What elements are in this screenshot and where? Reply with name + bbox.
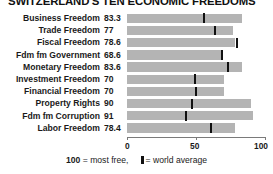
x-axis-tick-label: 100 [254, 141, 268, 151]
value-label: 70 [104, 86, 124, 97]
world-average-tick-icon [195, 87, 197, 97]
value-label: 70 [104, 74, 124, 85]
value-label: 83.6 [104, 62, 124, 73]
world-average-tick-icon [236, 38, 238, 48]
world-average-tick-icon [227, 62, 229, 72]
bar-track [127, 75, 265, 84]
category-label: Business Freedom [0, 13, 100, 24]
legend-most-free-number: 100 [66, 155, 80, 165]
world-average-tick-icon [141, 156, 143, 164]
value-label: 78.4 [104, 123, 124, 134]
value-bar [127, 75, 224, 84]
value-bar [127, 99, 251, 108]
world-average-tick-icon [221, 50, 223, 60]
value-bar [127, 87, 224, 96]
value-bar [127, 62, 242, 71]
bar-track [127, 87, 265, 96]
economic-freedoms-chart: SWITZERLAND'S TEN ECONOMIC FREEDOMS Busi… [0, 0, 273, 174]
x-axis-tick [196, 137, 197, 140]
chart-row: Business Freedom 83.3 [0, 13, 273, 25]
category-label: Investment Freedom [0, 74, 100, 85]
world-average-tick-icon [214, 26, 216, 36]
chart-row: Financial Freedom 70 [0, 86, 273, 98]
value-bar [127, 38, 235, 47]
bar-track [127, 123, 265, 132]
bar-track [127, 99, 265, 108]
x-axis-tick-label: 0 [125, 141, 130, 151]
chart-row: Property Rights 90 [0, 98, 273, 110]
value-bar [127, 50, 222, 59]
x-axis-tick [265, 137, 266, 140]
chart-legend: 100 = most free,= world average [0, 155, 273, 165]
value-label: 78.6 [104, 37, 124, 48]
x-axis-tick-label: 50 [190, 141, 199, 151]
world-average-tick-icon [210, 123, 212, 133]
category-label: Property Rights [0, 98, 100, 109]
x-axis-tick [127, 137, 128, 140]
chart-rows: Business Freedom 83.3 Trade Freedom 77 F… [0, 13, 273, 135]
category-label: Fdm fm Corruption [0, 111, 100, 122]
value-label: 91 [104, 111, 124, 122]
value-label: 90 [104, 98, 124, 109]
chart-row: Fiscal Freedom 78.6 [0, 37, 273, 49]
chart-title: SWITZERLAND'S TEN ECONOMIC FREEDOMS [8, 0, 270, 7]
chart-row: Labor Freedom 78.4 [0, 123, 273, 135]
world-average-tick-icon [194, 74, 196, 84]
value-label: 68.6 [104, 50, 124, 61]
chart-row: Monetary Freedom 83.6 [0, 62, 273, 74]
legend-world-average-text: = world average [146, 155, 207, 165]
value-bar [127, 14, 242, 23]
bar-track [127, 26, 265, 35]
value-label: 83.3 [104, 13, 124, 24]
value-label: 77 [104, 25, 124, 36]
world-average-tick-icon [191, 99, 193, 109]
value-bar [127, 123, 235, 132]
chart-row: Fdm fm Corruption 91 [0, 111, 273, 123]
category-label: Labor Freedom [0, 123, 100, 134]
bar-track [127, 14, 265, 23]
category-label: Fiscal Freedom [0, 37, 100, 48]
legend-most-free-text: = most free, [83, 155, 129, 165]
chart-row: Investment Freedom 70 [0, 74, 273, 86]
world-average-tick-icon [185, 111, 187, 121]
bar-track [127, 62, 265, 71]
value-bar [127, 26, 233, 35]
bar-track [127, 38, 265, 47]
category-label: Financial Freedom [0, 86, 100, 97]
category-label: Fdm fm Government [0, 50, 100, 61]
chart-row: Fdm fm Government 68.6 [0, 50, 273, 62]
category-label: Trade Freedom [0, 25, 100, 36]
bar-track [127, 111, 265, 120]
bar-track [127, 50, 265, 59]
world-average-tick-icon [203, 13, 205, 23]
chart-row: Trade Freedom 77 [0, 25, 273, 37]
category-label: Monetary Freedom [0, 62, 100, 73]
value-bar [127, 111, 253, 120]
